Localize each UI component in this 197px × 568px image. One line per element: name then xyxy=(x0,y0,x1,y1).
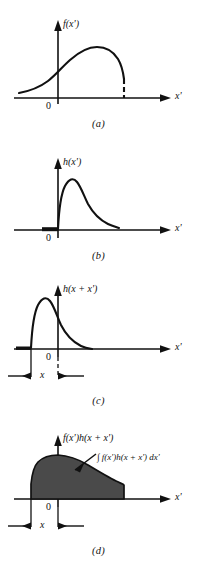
panel-b-caption: (b) xyxy=(0,250,197,261)
x-axis-arrowhead xyxy=(160,226,171,234)
x-axis-arrowhead xyxy=(160,345,171,353)
panel-c-caption: (c) xyxy=(0,395,197,406)
panel-c-offset-label: x xyxy=(40,369,44,380)
panel-a-caption: (a) xyxy=(0,118,197,129)
panel-b-plot xyxy=(0,138,197,256)
panel-b: h(x') x' 0 (b) xyxy=(0,138,197,273)
panel-c: h(x + x') x' 0 x (c) xyxy=(0,273,197,421)
panel-d: f(x')h(x + x') ∫ f(x')h(x + x') dx' x' 0… xyxy=(0,421,197,568)
panel-d-integral-annotation: ∫ f(x')h(x + x') dx' xyxy=(97,452,160,462)
y-axis-arrowhead xyxy=(54,158,62,169)
panel-d-offset-label: x xyxy=(40,519,44,530)
panel-c-y-label: h(x + x') xyxy=(63,283,97,294)
dimension-arrow-left xyxy=(22,523,31,530)
panel-b-y-label: h(x') xyxy=(63,156,81,167)
panel-c-origin-label: 0 xyxy=(46,351,51,362)
panel-b-origin-label: 0 xyxy=(46,232,51,243)
panel-d-y-label: f(x')h(x + x') xyxy=(63,432,113,443)
y-axis-arrowhead xyxy=(54,285,62,296)
curve-h xyxy=(58,179,119,229)
curve-f xyxy=(19,47,124,93)
panel-d-caption: (d) xyxy=(0,545,197,556)
panel-a-y-label: f(x') xyxy=(63,18,79,29)
curve-h-shifted xyxy=(31,298,92,349)
panel-c-plot xyxy=(0,273,197,403)
dimension-arrow-right xyxy=(58,373,67,380)
panel-a: f(x') x' 0 (a) xyxy=(0,0,197,138)
panel-d-origin-label: 0 xyxy=(46,501,51,512)
panel-a-x-label: x' xyxy=(175,90,182,101)
dimension-arrow-left xyxy=(22,373,31,380)
x-axis-arrowhead xyxy=(160,94,171,102)
panel-c-x-label: x' xyxy=(175,341,182,352)
convolution-figure: f(x') x' 0 (a) h(x') x' 0 (b) xyxy=(0,0,197,568)
panel-a-origin-label: 0 xyxy=(46,100,51,111)
x-axis-arrowhead xyxy=(160,495,171,503)
panel-b-x-label: x' xyxy=(175,222,182,233)
y-axis-arrowhead xyxy=(54,20,62,31)
y-axis-arrowhead xyxy=(54,435,62,446)
dimension-arrow-right xyxy=(58,523,67,530)
panel-d-x-label: x' xyxy=(175,491,182,502)
panel-a-plot xyxy=(0,0,197,120)
